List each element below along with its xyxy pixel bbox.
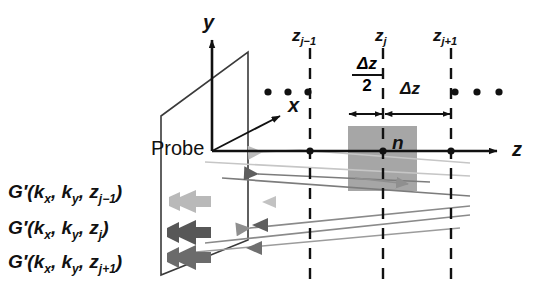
wavefield-sub-ky-1: y [72, 228, 79, 242]
half-step-denominator: 2 [350, 77, 384, 95]
beam-arrowhead-upper [262, 196, 276, 208]
full-step-label: Δz [400, 80, 420, 97]
diagram-canvas [0, 0, 551, 289]
source-marker-lower [167, 245, 211, 270]
wavefield-sub-kx-1: x [44, 228, 51, 242]
tick-base-j-plus-1: z [433, 26, 442, 45]
tick-label-j-minus-1: zj−1 [292, 27, 316, 47]
node-j [379, 147, 386, 154]
beam-propagation-diagram: y x z Probe zj−1 zj zj+1 Δz 2 Δz n G′(kx… [0, 0, 551, 289]
wavefield-sub-ky-2: y [72, 262, 79, 276]
wavefield-sub-kx-2: x [44, 262, 51, 276]
wavefield-mid2-1: , z [79, 217, 99, 238]
wavefield-mid2-2: , z [79, 251, 99, 272]
beam-middle [222, 174, 470, 196]
probe-label: Probe [151, 138, 204, 158]
wavefield-label-j-minus-1: G′(kx, ky, zj−1) [8, 182, 122, 205]
beam-arrowhead-lower [246, 241, 262, 255]
tick-sub-j-minus-1: j−1 [301, 35, 317, 47]
wavefield-sub-z-2: j+1 [99, 262, 116, 276]
z-axis-label: z [512, 139, 522, 159]
wavefield-sub-z-0: j−1 [99, 192, 116, 206]
wavefield-suffix-2: ) [116, 251, 122, 272]
wavefield-sub-kx-0: x [44, 192, 51, 206]
wavefield-mid-0: , k [51, 181, 72, 202]
wavefield-prefix-2: G′(k [8, 251, 44, 272]
node-j-plus-1 [447, 147, 454, 154]
wavefield-suffix-0: ) [116, 181, 122, 202]
source-marker-upper [169, 190, 211, 213]
source-marker-middle [167, 220, 211, 245]
wavefield-mid-2: , k [51, 251, 72, 272]
ellipsis-right [451, 88, 502, 95]
beam-arrowhead-middle [252, 218, 268, 232]
refractive-index-label: n [392, 133, 404, 152]
tick-base-j-minus-1: z [292, 26, 301, 45]
x-axis [212, 116, 280, 151]
node-j-minus-1 [306, 147, 313, 154]
tick-sub-j-plus-1: j+1 [442, 35, 458, 47]
wavefield-mid-1: , k [51, 217, 72, 238]
x-axis-label: x [288, 95, 299, 115]
tick-sub-j: j [384, 35, 387, 47]
half-step-numerator: Δz [350, 55, 384, 73]
wavefield-mid2-0: , z [79, 181, 99, 202]
half-step-label: Δz 2 [350, 55, 384, 95]
tick-base-j: z [375, 26, 384, 45]
wavefield-suffix-1: ) [102, 217, 108, 238]
wavefield-label-j-plus-1: G′(kx, ky, zj+1) [8, 252, 122, 275]
wavefield-sub-ky-0: y [72, 192, 79, 206]
y-axis-label: y [203, 12, 214, 32]
wavefield-label-j: G′(kx, ky, zj) [8, 218, 108, 241]
wavefield-prefix-0: G′(k [8, 181, 44, 202]
tick-label-j-plus-1: zj+1 [433, 27, 457, 47]
wavefield-prefix-1: G′(k [8, 217, 44, 238]
tick-label-j: zj [375, 27, 387, 47]
beam-upper [205, 150, 470, 176]
